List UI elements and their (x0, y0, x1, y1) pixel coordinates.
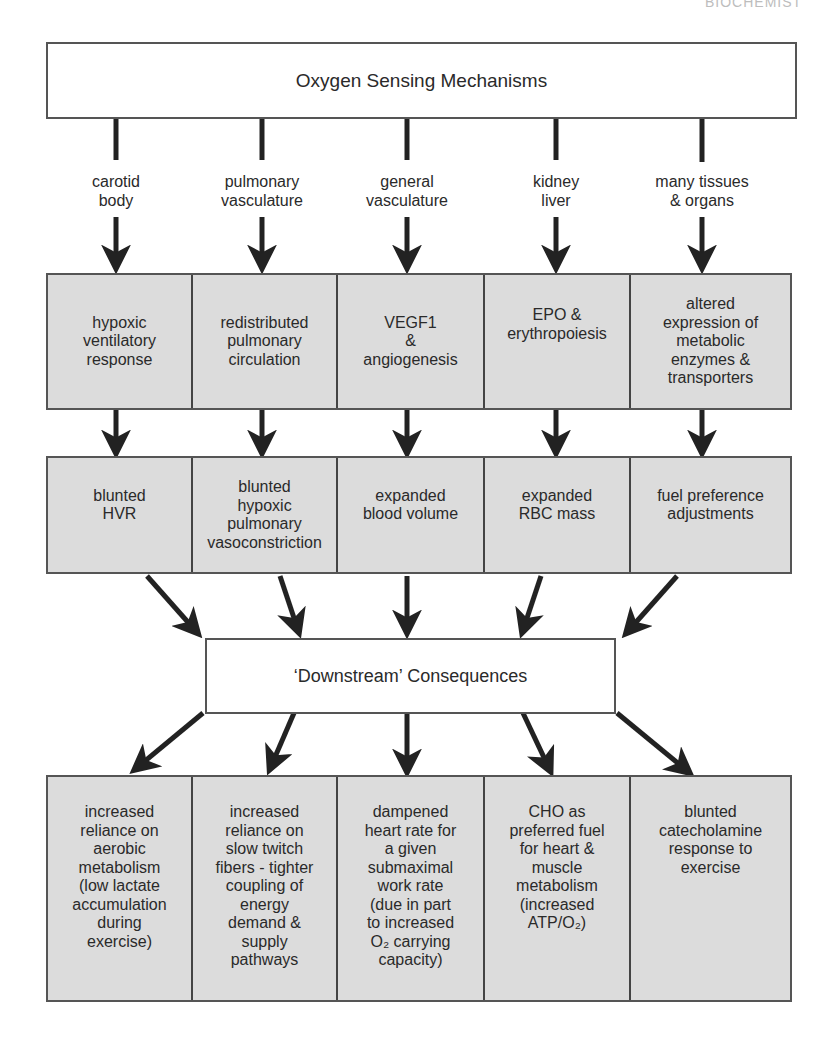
sensor-site-line: pulmonary (192, 173, 332, 192)
adaptation-cell: fuel preference adjustments (631, 458, 790, 572)
consequences-row: increased reliance on aerobic metabolism… (46, 775, 792, 1002)
consequence-text: CHO as preferred fuel for heart & muscle… (509, 803, 604, 933)
consequence-text: increased reliance on aerobic metabolism… (72, 803, 166, 951)
response-cell: EPO & erythropoiesis (485, 275, 631, 408)
response-text: altered expression of metabolic enzymes … (663, 295, 758, 388)
consequence-text: increased reliance on slow twitch fibers… (216, 803, 314, 970)
downstream-title: ‘Downstream’ Consequences (294, 666, 527, 687)
sensor-site-label: kidney liver (486, 173, 626, 210)
consequence-cell: increased reliance on aerobic metabolism… (48, 777, 193, 1000)
arrow-diverge-icon (617, 713, 685, 769)
arrow-diverge-icon (523, 713, 548, 766)
sensor-site-line: vasculature (337, 192, 477, 211)
arrow-converge-icon (630, 576, 677, 629)
adaptation-cell: expanded blood volume (338, 458, 485, 572)
adaptation-cell: blunted HVR (48, 458, 193, 572)
arrow-converge-icon (524, 576, 541, 627)
downstream-consequences-box: ‘Downstream’ Consequences (205, 638, 616, 714)
response-cell: hypoxic ventilatory response (48, 275, 193, 408)
sensor-site-label: many tissues & organs (632, 173, 772, 210)
response-cell: VEGF1 & angiogenesis (338, 275, 485, 408)
adaptation-text: expanded blood volume (363, 487, 458, 524)
response-cell: altered expression of metabolic enzymes … (631, 275, 790, 408)
consequence-cell: dampened heart rate for a given submaxim… (338, 777, 485, 1000)
arrow-diverge-icon (139, 713, 203, 766)
sensor-site-line: & organs (632, 192, 772, 211)
responses-row: hypoxic ventilatory response redistribut… (46, 273, 792, 410)
sensor-site-line: carotid (46, 173, 186, 192)
sensor-site-line: general (337, 173, 477, 192)
response-text: hypoxic ventilatory response (83, 314, 156, 370)
consequence-cell: blunted catecholamine response to exerci… (631, 777, 790, 1000)
sensor-site-label: carotid body (46, 173, 186, 210)
sensor-site-line: many tissues (632, 173, 772, 192)
sensor-site-label: pulmonary vasculature (192, 173, 332, 210)
adaptations-row: blunted HVR blunted hypoxic pulmonary va… (46, 456, 792, 574)
adaptation-text: blunted HVR (93, 487, 146, 524)
response-text: EPO & erythropoiesis (507, 306, 607, 343)
adaptation-text: fuel preference adjustments (657, 487, 764, 524)
sensor-site-line: kidney (486, 173, 626, 192)
adaptation-cell: expanded RBC mass (485, 458, 631, 572)
sensor-site-line: vasculature (192, 192, 332, 211)
response-cell: redistributed pulmonary circulation (193, 275, 338, 408)
arrow-diverge-icon (272, 713, 294, 764)
adaptation-text: blunted hypoxic pulmonary vasoconstricti… (207, 478, 322, 552)
sensor-site-line: body (46, 192, 186, 211)
response-text: VEGF1 & angiogenesis (363, 314, 457, 370)
sensor-site-line: liver (486, 192, 626, 211)
sensor-site-label: general vasculature (337, 173, 477, 210)
adaptation-text: expanded RBC mass (519, 487, 595, 524)
adaptation-cell: blunted hypoxic pulmonary vasoconstricti… (193, 458, 338, 572)
consequence-text: dampened heart rate for a given submaxim… (365, 803, 457, 970)
consequence-cell: increased reliance on slow twitch fibers… (193, 777, 338, 1000)
arrow-converge-icon (280, 576, 297, 627)
consequence-text: blunted catecholamine response to exerci… (659, 803, 762, 877)
arrow-converge-icon (147, 576, 194, 629)
consequence-cell: CHO as preferred fuel for heart & muscle… (485, 777, 631, 1000)
response-text: redistributed pulmonary circulation (220, 314, 308, 370)
